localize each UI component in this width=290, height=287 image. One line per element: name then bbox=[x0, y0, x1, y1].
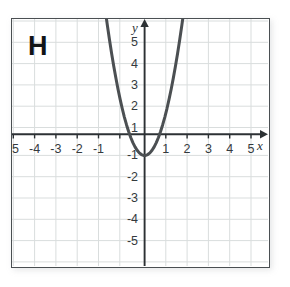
panel-letter-label: H bbox=[28, 33, 48, 60]
x-tick-label--3: -3 bbox=[50, 143, 61, 156]
plot-frame: -5 -4 -3 -2 -1 1 2 3 4 5 5 4 3 2 1 -1 -2… bbox=[11, 18, 270, 268]
y-tick-label--3: -3 bbox=[112, 192, 138, 205]
y-tick-label--2: -2 bbox=[112, 170, 138, 183]
y-tick-label--4: -4 bbox=[112, 213, 138, 226]
x-tick-label-5: 5 bbox=[248, 143, 255, 156]
y-axis bbox=[140, 19, 148, 266]
y-tick-label--5: -5 bbox=[112, 234, 138, 247]
y-tick-label--1: -1 bbox=[112, 149, 138, 162]
y-tick-label-1: 1 bbox=[112, 121, 138, 134]
x-tick-label--1: -1 bbox=[93, 143, 104, 156]
x-tick-label--5: -5 bbox=[11, 143, 19, 156]
x-tick-label-4: 4 bbox=[226, 143, 233, 156]
x-tick-label--2: -2 bbox=[72, 143, 83, 156]
y-tick-label-3: 3 bbox=[112, 79, 138, 92]
x-tick-label-2: 2 bbox=[184, 143, 191, 156]
x-axis-name: x bbox=[257, 139, 263, 152]
x-tick-label-1: 1 bbox=[162, 143, 169, 156]
y-axis-name: y bbox=[132, 21, 138, 34]
y-tick-label-4: 4 bbox=[112, 57, 138, 70]
graph-figure: -5 -4 -3 -2 -1 1 2 3 4 5 5 4 3 2 1 -1 -2… bbox=[0, 0, 290, 287]
x-tick-label--4: -4 bbox=[29, 143, 40, 156]
y-tick-label-2: 2 bbox=[112, 100, 138, 113]
x-tick-label-3: 3 bbox=[205, 143, 212, 156]
y-tick-label-5: 5 bbox=[112, 36, 138, 49]
